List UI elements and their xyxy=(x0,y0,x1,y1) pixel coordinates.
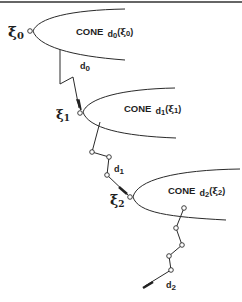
cone-diagram: ξ0 ξ1 ξ2 CONEd0(ξ0) CONEd1(ξ1) CONEd2(ξ2… xyxy=(0,0,242,302)
d2-step-point xyxy=(182,206,187,211)
d2-label: d2 xyxy=(166,280,177,292)
d0-arrowhead-icon xyxy=(77,100,81,110)
d1-arrowhead-icon xyxy=(119,187,127,194)
cone2-label: CONEd2(ξ2) xyxy=(168,185,225,199)
cone1-label: CONEd1(ξ1) xyxy=(124,103,181,117)
d1-step-point xyxy=(107,155,112,160)
d1-label: d1 xyxy=(114,164,125,176)
d2-arrowhead-icon xyxy=(143,282,153,288)
d1-step-point xyxy=(105,173,110,178)
d2-step-point xyxy=(174,226,179,231)
d2-step-point xyxy=(180,243,185,248)
d1-step-point xyxy=(90,150,95,155)
xi2-label: ξ2 xyxy=(110,192,125,209)
xi0-label: ξ0 xyxy=(8,23,24,41)
d0-path xyxy=(60,49,79,108)
cone0-label: CONEd0(ξ0) xyxy=(76,26,133,40)
d2-step-point xyxy=(167,254,172,259)
xi1-point xyxy=(78,111,83,116)
d2-step-point xyxy=(169,268,174,273)
d0-label: d0 xyxy=(80,61,91,73)
xi1-label: ξ1 xyxy=(56,107,70,123)
xi2-point xyxy=(128,195,133,200)
d2-path xyxy=(145,208,184,286)
xi0-point xyxy=(28,29,33,34)
